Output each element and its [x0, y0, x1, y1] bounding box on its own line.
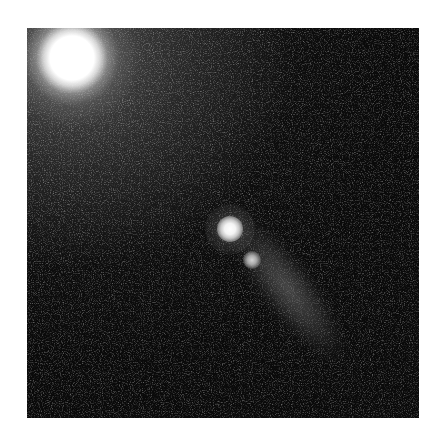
bright-star: [27, 28, 419, 418]
astronomical-image: Grayscale astronomical image showing a b…: [27, 28, 419, 418]
